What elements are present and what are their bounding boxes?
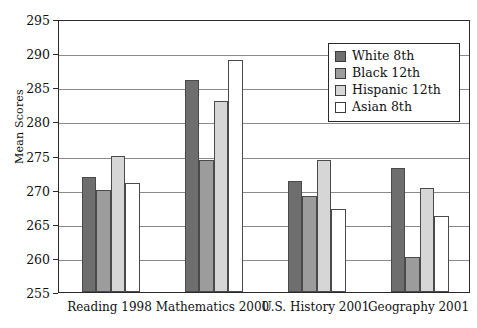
x-tick-label: Mathematics 2000: [156, 300, 270, 314]
y-tick-label: 275: [8, 149, 50, 164]
y-tick-label: 295: [8, 13, 50, 28]
legend-item: Asian 8th: [335, 99, 453, 116]
bar: [317, 160, 332, 292]
legend-label: White 8th: [352, 50, 414, 63]
y-tick-label: 260: [8, 251, 50, 266]
legend-swatch-black-12th: [335, 68, 346, 79]
bar: [391, 168, 406, 292]
y-tick-label: 255: [8, 286, 50, 301]
y-tick-label: 280: [8, 115, 50, 130]
bar: [331, 209, 346, 292]
legend-label: Asian 8th: [352, 101, 412, 114]
bar: [185, 80, 200, 292]
bar: [434, 216, 449, 292]
bar: [214, 101, 229, 292]
bar: [228, 60, 243, 292]
x-tick-label: Geography 2001: [368, 300, 469, 314]
bar: [125, 183, 140, 292]
legend-item: Hispanic 12th: [335, 82, 453, 99]
bar: [302, 196, 317, 292]
bar: [96, 190, 111, 292]
y-tick-label: 290: [8, 47, 50, 62]
legend-swatch-white-8th: [335, 51, 346, 62]
bar: [420, 188, 435, 292]
x-tick-label: Reading 1998: [67, 300, 152, 314]
bar: [288, 181, 303, 292]
bar: [82, 177, 97, 292]
legend: White 8th Black 12th Hispanic 12th Asian…: [328, 43, 460, 122]
bar: [111, 156, 126, 293]
y-tick-mark: [53, 293, 58, 294]
x-tick-label: U.S. History 2001: [262, 300, 370, 314]
y-tick-label: 285: [8, 81, 50, 96]
legend-item: White 8th: [335, 48, 453, 65]
legend-label: Black 12th: [352, 67, 420, 80]
bar: [199, 160, 214, 292]
legend-label: Hispanic 12th: [352, 84, 441, 97]
y-tick-label: 270: [8, 183, 50, 198]
bar-chart: Mean Scores 255260265270275280285290295 …: [0, 0, 477, 328]
legend-item: Black 12th: [335, 65, 453, 82]
legend-swatch-asian-8th: [335, 102, 346, 113]
legend-swatch-hispanic-12th: [335, 85, 346, 96]
y-tick-label: 265: [8, 217, 50, 232]
bar: [405, 257, 420, 292]
